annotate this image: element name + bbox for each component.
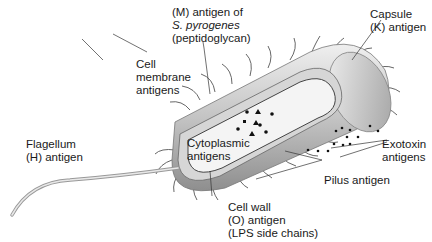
label-exotoxin: Exotoxin antigens [382,138,426,164]
label-m-antigen: (M) antigen of S. pyrogenes (peptidoglyc… [172,6,251,45]
label-flagellum: Flagellum (H) antigen [26,138,83,164]
label-capsule: Capsule (K) antigen [370,8,426,34]
label-cell-membrane: Cell membrane antigens [136,58,191,97]
label-cytoplasmic: Cytoplasmic antigens [187,137,250,163]
label-pilus: Pilus antigen [324,174,390,187]
flagellum [12,168,178,215]
label-cell-wall: Cell wall (O) antigen (LPS side chains) [228,201,318,240]
